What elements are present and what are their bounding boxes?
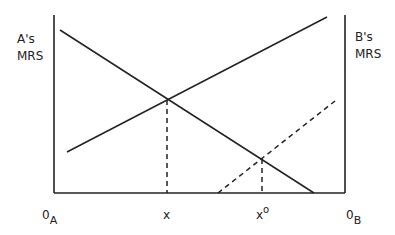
right-axis-label-line2: MRS — [355, 47, 381, 61]
left-axis-label-line1: A's — [17, 32, 43, 46]
origin-b-main: 0 — [346, 208, 354, 222]
origin-b-label: 0B — [346, 208, 361, 223]
b-mrs-shifted-dashed-line — [218, 101, 335, 193]
x0-tick-label: xo — [256, 208, 269, 223]
origin-a-subscript: A — [50, 214, 58, 227]
x-tick-label: x — [163, 208, 170, 222]
b-mrs-line — [67, 17, 327, 152]
mrs-diagram — [0, 0, 395, 235]
x-tick-text: x — [163, 208, 170, 222]
origin-a-main: 0 — [42, 208, 50, 222]
left-axis-label: A's MRS — [17, 32, 43, 63]
x0-tick-superscript: o — [263, 204, 269, 215]
left-axis-label-line2: MRS — [17, 49, 43, 63]
origin-a-label: 0A — [42, 208, 57, 223]
a-mrs-line — [60, 30, 314, 193]
right-axis-label-line1: B's — [355, 30, 381, 44]
origin-b-subscript: B — [354, 214, 362, 227]
right-axis-label: B's MRS — [355, 30, 381, 61]
